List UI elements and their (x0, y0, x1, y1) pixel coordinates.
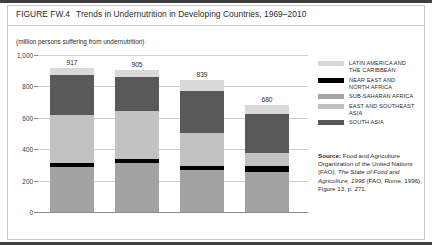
chart-legend: LATIN AMERICA ANDTHE CARIBBEANNEAR EAST … (318, 60, 426, 129)
legend-item[interactable]: LATIN AMERICA ANDTHE CARIBBEAN (318, 60, 426, 74)
bar-stack (50, 68, 94, 212)
figure-title-text: Trends in Undernutrition in Developing C… (76, 9, 306, 19)
bar-stack (180, 80, 224, 212)
bar-segment[interactable] (115, 163, 159, 212)
figure-panel: FIGURE FW.4Trends in Undernutrition in D… (0, 0, 432, 245)
bar-stack (245, 105, 289, 212)
legend-swatch-icon (318, 104, 344, 109)
y-axis-tick-label: 1,000 (17, 52, 33, 59)
legend-label: SOUTH ASIA (349, 119, 384, 126)
source-label: Source: (318, 152, 341, 159)
y-tick-mark (34, 118, 38, 119)
y-tick-mark (34, 149, 38, 150)
bar-segment[interactable] (245, 172, 289, 212)
bar-total-label: 905 (115, 61, 159, 68)
y-axis-tick-label: 800 (22, 83, 33, 90)
legend-item[interactable]: EAST AND SOUTHEAST ASIA (318, 103, 426, 117)
legend-label: NEAR EAST ANDNORTH AFRICA (349, 77, 395, 91)
legend-item[interactable]: SOUTH ASIA (318, 119, 426, 126)
chart-plot-area: 02004006008001,000 9171969-719051979-818… (38, 55, 308, 213)
y-tick-mark (34, 86, 38, 87)
y-axis-tick-label: 400 (22, 146, 33, 153)
bar-segment[interactable] (50, 68, 94, 75)
bar-segment[interactable] (50, 115, 94, 163)
y-axis-tick-label: 0 (29, 209, 33, 216)
figure-number: FIGURE FW.4 (16, 9, 70, 19)
bar-total-label: 839 (180, 71, 224, 78)
legend-label: SUB-SAHARAN AFRICA (349, 93, 413, 100)
bar-total-label: 680 (245, 96, 289, 103)
y-tick-mark (34, 181, 38, 182)
bar-segment[interactable] (180, 91, 224, 133)
bar-segment[interactable] (180, 80, 224, 90)
y-axis-tick-label: 600 (22, 114, 33, 121)
gridline-1000 (38, 55, 308, 56)
bar-segment[interactable] (245, 114, 289, 153)
x-axis-line (38, 212, 308, 213)
bar-stack (115, 70, 159, 212)
frame-top-rule (0, 0, 432, 3)
legend-label: LATIN AMERICA ANDTHE CARIBBEAN (349, 60, 406, 74)
bar-segment[interactable] (50, 75, 94, 115)
legend-label: EAST AND SOUTHEAST ASIA (349, 103, 426, 117)
bar-segment[interactable] (115, 77, 159, 111)
bar-segment[interactable] (115, 70, 159, 77)
bar-segment[interactable] (180, 133, 224, 167)
bar-segment[interactable] (245, 153, 289, 166)
y-tick-mark (34, 55, 38, 56)
figure-title: FIGURE FW.4Trends in Undernutrition in D… (16, 9, 306, 19)
legend-swatch-icon (318, 61, 344, 66)
legend-item[interactable]: NEAR EAST ANDNORTH AFRICA (318, 77, 426, 91)
bar-segment[interactable] (115, 111, 159, 159)
legend-swatch-icon (318, 78, 344, 83)
legend-item[interactable]: SUB-SAHARAN AFRICA (318, 93, 426, 100)
y-axis-tick-label: 200 (22, 177, 33, 184)
legend-swatch-icon (318, 120, 344, 125)
units-caption: (million persons suffering from undernut… (16, 38, 144, 45)
title-divider (8, 25, 424, 26)
source-note: Source: Food and Agriculture Organizatio… (318, 152, 426, 193)
bar-segment[interactable] (180, 170, 224, 212)
legend-swatch-icon (318, 94, 344, 99)
bar-segment[interactable] (50, 167, 94, 212)
bar-total-label: 917 (50, 59, 94, 66)
bar-segment[interactable] (245, 105, 289, 114)
